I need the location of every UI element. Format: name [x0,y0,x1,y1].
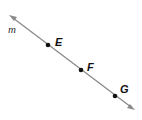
point-label-f: F [87,61,94,73]
point-label-g: G [120,83,129,95]
line-m [0,0,142,120]
point-e [46,43,51,48]
line-label: m [8,23,16,35]
point-g [113,94,118,99]
line-diagram: m E F G [0,0,142,120]
point-label-e: E [55,36,62,48]
point-f [79,68,84,73]
